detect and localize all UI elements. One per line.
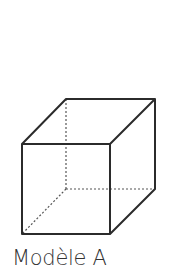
cube-diagram	[0, 0, 170, 275]
figure-caption: Modèle A	[12, 246, 107, 270]
visible-edges	[22, 99, 155, 234]
